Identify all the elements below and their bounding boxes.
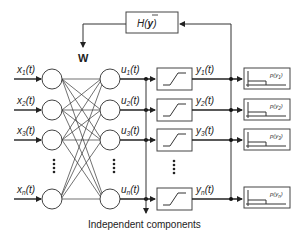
- weight-label: W: [78, 52, 89, 64]
- input-neuron-3: [42, 130, 62, 150]
- feedback-label: H(y): [137, 18, 156, 29]
- output-label-n: yn(t): [195, 184, 214, 196]
- input-label-3: x3(t): [16, 125, 35, 137]
- input-label-n: xn(t): [16, 184, 35, 196]
- row-3: x3(t) u3(t) y3(t) p(y3): [14, 125, 290, 151]
- pdf-block-1: p(y1): [244, 68, 290, 89]
- hidden-label-n: un(t): [121, 184, 140, 196]
- row-n: xn(t) un(t) yn(t) p(yn): [14, 184, 290, 210]
- hidden-label-3: u3(t): [121, 125, 140, 137]
- pdf-block-n: p(yn): [244, 187, 290, 208]
- output-label-3: y3(t): [195, 125, 214, 137]
- input-neuron-n: [42, 189, 62, 209]
- output-label-1: y1(t): [195, 64, 214, 76]
- ica-network-diagram: H(y) W x1(t) u1(t) y1: [0, 0, 297, 238]
- input-neuron-2: [42, 100, 62, 120]
- row-2: x2(t) u2(t) y2(t) p(y2): [14, 95, 290, 121]
- output-label-2: y2(t): [195, 95, 214, 107]
- row-1: x1(t) u1(t) y1(t) p(y1): [14, 64, 290, 90]
- output-neuron-n: [100, 189, 120, 209]
- ellipsis-dots: [53, 159, 176, 175]
- input-label-1: x1(t): [16, 64, 35, 76]
- independent-components-caption: Independent components: [88, 219, 201, 230]
- weight-update-line: [83, 24, 126, 47]
- hidden-label-1: u1(t): [121, 64, 140, 76]
- output-neuron-3: [100, 130, 120, 150]
- feedback-block: H(y): [126, 12, 178, 33]
- hidden-label-2: u2(t): [121, 95, 140, 107]
- pdf-block-3: p(y3): [244, 129, 290, 150]
- input-label-2: x2(t): [16, 95, 35, 107]
- input-neuron-1: [42, 69, 62, 89]
- weight-connections: [60, 79, 104, 199]
- pdf-block-2: p(y2): [244, 99, 290, 120]
- output-neuron-2: [100, 100, 120, 120]
- output-neuron-1: [100, 69, 120, 89]
